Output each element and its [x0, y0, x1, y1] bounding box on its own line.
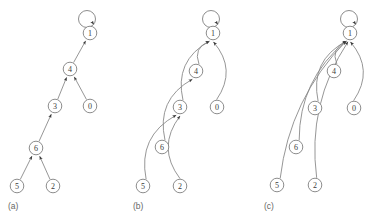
node-label-c-3: 3 — [313, 104, 317, 113]
node-label-b-2: 2 — [178, 182, 182, 191]
edge-b-2-to-b-3 — [168, 116, 180, 179]
node-label-c-6: 6 — [294, 143, 298, 152]
node-a-0[interactable]: 0 — [83, 99, 97, 113]
node-label-c-1: 1 — [348, 29, 352, 38]
node-a-1[interactable]: 1 — [83, 26, 97, 40]
edge-a-6-to-a-3 — [39, 114, 51, 141]
node-label-b-5: 5 — [141, 182, 145, 191]
node-c-4[interactable]: 4 — [327, 64, 341, 78]
node-layer: 143065214306521430652 — [10, 26, 361, 193]
node-label-b-0: 0 — [215, 103, 219, 112]
node-b-5[interactable]: 5 — [136, 179, 150, 193]
panel-label-panel-a: (a) — [8, 201, 19, 211]
edge-layer — [20, 11, 363, 180]
self-loop-c-1 — [341, 11, 358, 28]
node-label-a-6: 6 — [34, 144, 38, 153]
self-loop-a-1 — [79, 11, 96, 28]
node-c-0[interactable]: 0 — [347, 101, 361, 115]
node-label-a-5: 5 — [15, 182, 19, 191]
node-label-b-6: 6 — [160, 143, 164, 152]
union-find-tree-diagram: 143065214306521430652 (a)(b)(c) — [0, 0, 371, 216]
panel-label-panel-b: (b) — [133, 201, 144, 211]
node-a-3[interactable]: 3 — [48, 99, 62, 113]
self-loop-arrow-b-1 — [216, 22, 218, 24]
node-a-4[interactable]: 4 — [63, 62, 77, 76]
node-label-b-3: 3 — [178, 103, 182, 112]
panel-label-layer: (a)(b)(c) — [8, 201, 274, 211]
node-label-c-0: 0 — [352, 104, 356, 113]
edge-a-3-to-a-4 — [58, 77, 67, 99]
edge-c-0-to-c-1 — [350, 42, 363, 101]
node-label-c-5: 5 — [275, 181, 279, 190]
node-b-0[interactable]: 0 — [210, 100, 224, 114]
edge-a-5-to-a-6 — [20, 156, 32, 179]
self-loop-arrow-c-1 — [354, 22, 356, 24]
node-b-3[interactable]: 3 — [173, 100, 187, 114]
node-label-b-4: 4 — [194, 67, 198, 76]
edge-b-0-to-b-1 — [213, 42, 226, 100]
node-label-c-4: 4 — [332, 67, 336, 76]
edge-a-0-to-a-4 — [74, 77, 86, 100]
node-label-c-2: 2 — [313, 181, 317, 190]
node-b-2[interactable]: 2 — [173, 179, 187, 193]
panel-label-panel-c: (c) — [264, 201, 274, 211]
self-loop-arrow-a-1 — [92, 22, 94, 24]
node-label-a-2: 2 — [51, 182, 55, 191]
node-label-b-1: 1 — [211, 29, 215, 38]
node-label-a-4: 4 — [68, 65, 72, 74]
node-c-1[interactable]: 1 — [343, 26, 357, 40]
node-c-3[interactable]: 3 — [308, 101, 322, 115]
edge-a-2-to-a-6 — [40, 156, 50, 179]
node-c-6[interactable]: 6 — [289, 140, 303, 154]
node-label-a-1: 1 — [88, 29, 92, 38]
self-loop-b-1 — [203, 11, 220, 28]
node-label-a-3: 3 — [53, 102, 57, 111]
node-b-4[interactable]: 4 — [189, 64, 203, 78]
node-b-6[interactable]: 6 — [155, 140, 169, 154]
node-c-2[interactable]: 2 — [308, 178, 322, 192]
node-label-a-0: 0 — [88, 102, 92, 111]
edge-a-4-to-a-1 — [74, 41, 86, 63]
node-a-2[interactable]: 2 — [46, 179, 60, 193]
node-c-5[interactable]: 5 — [270, 178, 284, 192]
node-a-5[interactable]: 5 — [10, 179, 24, 193]
node-b-1[interactable]: 1 — [206, 26, 220, 40]
node-a-6[interactable]: 6 — [29, 141, 43, 155]
